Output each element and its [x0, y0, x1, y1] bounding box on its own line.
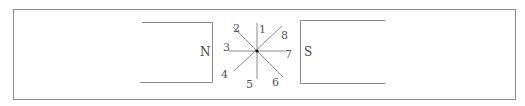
line-4-8 — [234, 26, 282, 71]
direction-label-4: 4 — [221, 68, 228, 81]
direction-label-2: 2 — [233, 22, 240, 35]
direction-label-6: 6 — [272, 76, 279, 89]
direction-label-7: 7 — [285, 48, 292, 61]
direction-label-3: 3 — [223, 41, 230, 54]
direction-label-8: 8 — [281, 29, 288, 42]
pole-label-north: N — [200, 45, 211, 59]
magnet-field-diagram: N S 1 2 3 4 5 6 7 8 — [0, 0, 525, 106]
center-point — [255, 49, 258, 52]
pole-label-south: S — [304, 45, 312, 59]
south-magnet — [301, 21, 386, 84]
direction-label-5: 5 — [246, 78, 253, 91]
direction-label-1: 1 — [259, 23, 266, 36]
